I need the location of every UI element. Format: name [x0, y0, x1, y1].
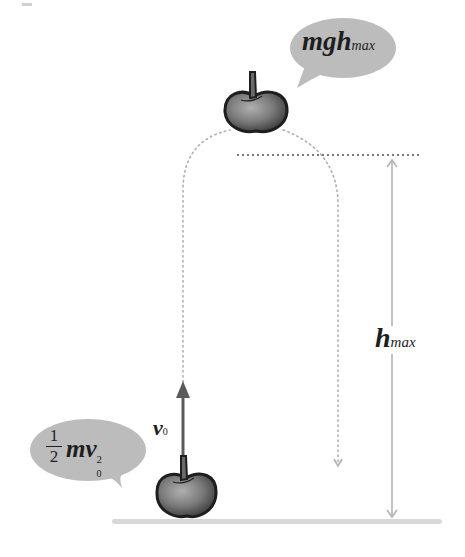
energy-conservation-diagram: mghmax 1 2 mv20 v0 hmax	[0, 0, 465, 557]
height-label: hmax	[375, 322, 416, 354]
apple-top-icon	[225, 72, 287, 132]
height-sub: max	[391, 334, 416, 350]
potential-energy-sub: max	[352, 38, 375, 53]
apple-bottom-icon	[157, 456, 216, 517]
velocity-sub: 0	[163, 426, 168, 437]
trajectory-path	[183, 130, 342, 466]
potential-energy-main: mgh	[302, 26, 352, 56]
fraction-denominator: 2	[46, 448, 62, 466]
fraction-numerator: 1	[46, 427, 62, 445]
corner-artifact	[22, 3, 32, 6]
kinetic-energy-sub: 0	[97, 468, 102, 479]
ground-line	[112, 519, 442, 524]
apple-stem-icon	[181, 456, 187, 480]
velocity-arrow	[176, 381, 190, 460]
potential-energy-label: mghmax	[302, 26, 375, 57]
velocity-label: v0	[153, 415, 168, 441]
arrowhead-up-icon	[176, 381, 190, 398]
fraction-one-half: 1 2	[46, 427, 62, 466]
kinetic-energy-label: 1 2 mv20	[46, 427, 146, 477]
height-main: h	[375, 322, 391, 353]
velocity-main: v	[153, 415, 163, 440]
kinetic-energy-sup: 2	[97, 453, 103, 465]
kinetic-energy-term: mv20	[66, 435, 107, 463]
apple-stem-icon	[250, 72, 256, 98]
kinetic-energy-main: mv	[66, 435, 97, 462]
